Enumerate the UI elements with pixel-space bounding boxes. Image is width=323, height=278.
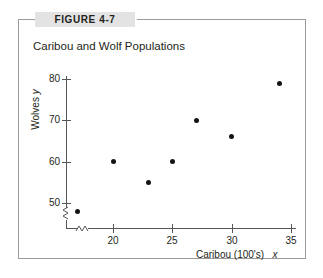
y-axis-tick-label: 60 xyxy=(38,156,60,167)
x-axis-tick-label: 35 xyxy=(279,235,303,246)
y-axis-tick xyxy=(62,203,71,204)
y-axis-tick xyxy=(62,79,71,80)
x-axis-tick xyxy=(232,224,233,233)
y-axis-variable: y xyxy=(30,89,41,94)
data-point xyxy=(194,118,199,123)
data-point xyxy=(75,209,80,214)
scatter-plot: Wolves y Caribou (100's) x 50607080 2025… xyxy=(0,0,323,278)
data-point xyxy=(170,159,175,164)
x-axis-line xyxy=(88,228,296,229)
x-axis-title: Caribou (100's) x xyxy=(196,249,277,260)
y-axis-tick xyxy=(62,162,71,163)
x-axis-variable: x xyxy=(272,249,277,260)
x-axis-title-text: Caribou (100's) xyxy=(196,249,264,260)
y-axis-break-icon xyxy=(60,206,74,222)
x-axis-tick-label: 20 xyxy=(101,235,125,246)
y-axis-tick xyxy=(62,120,71,121)
figure-container: FIGURE 4-7 Caribou and Wolf Populations … xyxy=(0,0,323,278)
data-point xyxy=(111,159,116,164)
x-axis-tick xyxy=(113,224,114,233)
y-axis-line xyxy=(66,76,67,208)
data-point xyxy=(277,81,282,86)
y-axis-tick-label: 50 xyxy=(38,197,60,208)
x-axis-break-icon xyxy=(75,221,91,235)
x-axis-tick xyxy=(291,224,292,233)
y-axis-tick-label: 70 xyxy=(38,114,60,125)
x-axis-tick xyxy=(172,224,173,233)
x-axis-tick-label: 25 xyxy=(160,235,184,246)
data-point xyxy=(229,134,234,139)
data-point xyxy=(146,180,151,185)
x-axis-tick-label: 30 xyxy=(220,235,244,246)
y-axis-tick-label: 80 xyxy=(38,73,60,84)
